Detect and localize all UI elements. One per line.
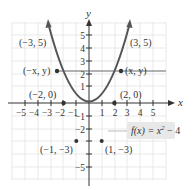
svg-text:3: 3 [125, 108, 130, 118]
graph-figure: y x −5 −4 −3 −2 −1 1 2 3 4 5 5 4 3 2 1 −… [0, 0, 193, 190]
point-label-m3-5: (−3, 5) [19, 37, 46, 49]
y-axis-arrow-icon [86, 19, 92, 26]
svg-text:5: 5 [151, 108, 156, 118]
svg-text:4: 4 [80, 44, 85, 54]
svg-text:−2: −2 [75, 125, 85, 135]
function-label: f(x) = x2 − 4 [131, 124, 180, 137]
svg-text:4: 4 [138, 108, 143, 118]
point-label-3-5: (3, 5) [130, 37, 152, 49]
x-tick-labels: −5 −4 −3 −2 −1 1 2 3 4 5 [16, 108, 156, 118]
svg-text:−4: −4 [29, 108, 39, 118]
parabola-plot: y x −5 −4 −3 −2 −1 1 2 3 4 5 5 4 3 2 1 −… [0, 0, 193, 190]
svg-text:3: 3 [80, 57, 85, 67]
point-label-mx-y: (−x, y) [23, 65, 50, 77]
svg-text:2: 2 [113, 108, 118, 118]
svg-text:−5: −5 [16, 108, 26, 118]
svg-text:−3: −3 [42, 108, 52, 118]
point-label-2-0: (2, 0) [120, 89, 142, 101]
svg-text:1: 1 [100, 108, 105, 118]
y-axis-label: y [85, 7, 91, 19]
svg-text:1: 1 [80, 82, 85, 92]
point-label-m1-m3: (−1, −3) [40, 144, 73, 156]
point-label-x-y: (x, y) [125, 65, 147, 77]
point-label-m2-0: (−2, 0) [29, 89, 56, 101]
svg-text:−1: −1 [75, 112, 85, 122]
x-axis-label: x [177, 96, 183, 108]
svg-text:−5: −5 [75, 163, 85, 173]
point-label-1-m3: (1, −3) [105, 144, 132, 156]
x-axis-arrow-icon [168, 100, 175, 106]
svg-text:−2: −2 [55, 108, 65, 118]
svg-text:5: 5 [80, 31, 85, 41]
